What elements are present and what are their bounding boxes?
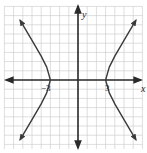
tick-label-neg3: −3: [41, 83, 51, 93]
y-axis-label: y: [81, 9, 87, 20]
hyperbola-graph: −3 3 y x: [0, 0, 147, 153]
tick-label-pos3: 3: [105, 83, 110, 93]
x-axis-label: x: [140, 83, 146, 94]
